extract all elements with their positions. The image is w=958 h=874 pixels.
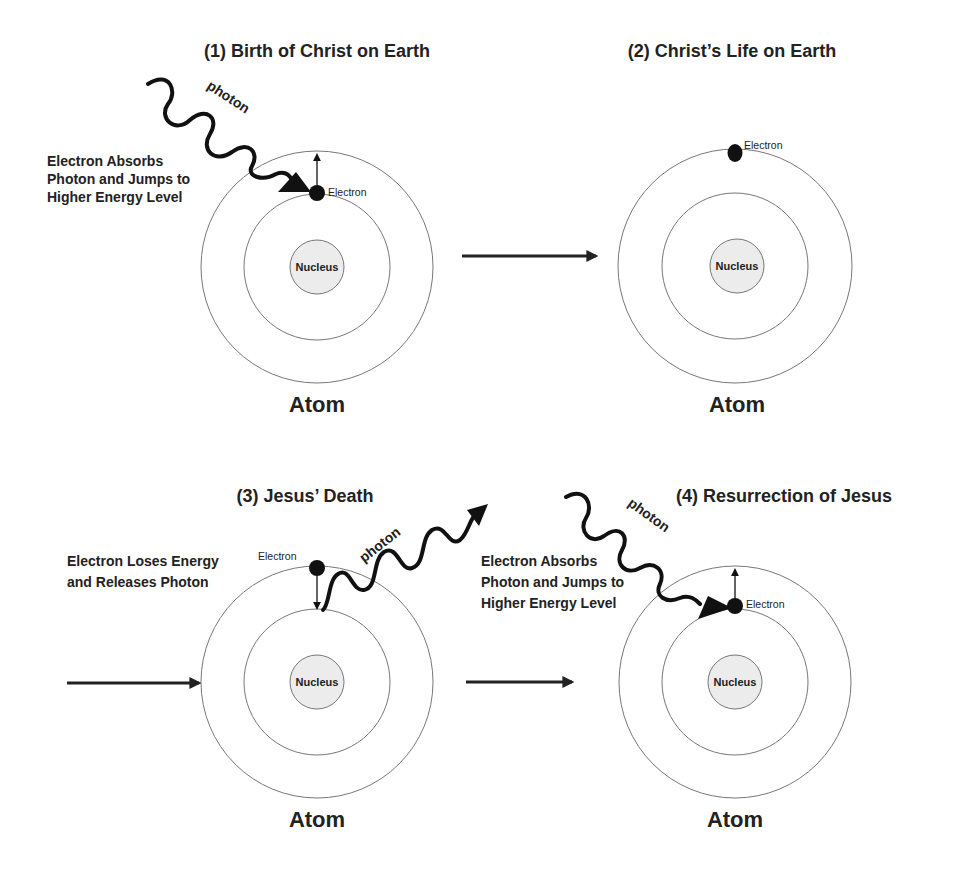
electron xyxy=(728,144,743,162)
panel-1-caption-line-2: Photon and Jumps to xyxy=(47,171,190,187)
nucleus-label: Nucleus xyxy=(714,676,757,688)
panel-3-caption-line-1: Electron Loses Energy xyxy=(67,553,219,569)
photon-label: photon xyxy=(625,494,673,535)
panel-2-life: (2) Christ’s Life on Earth Nucleus Elect… xyxy=(618,41,852,417)
panel-4-resurrection: (4) Resurrection of Jesus Electron Absor… xyxy=(481,486,892,832)
photon-arrowhead-icon xyxy=(698,596,732,619)
electron-label: Electron xyxy=(258,550,297,562)
nucleus-label: Nucleus xyxy=(296,261,339,273)
nucleus-label: Nucleus xyxy=(296,676,339,688)
electron xyxy=(309,185,325,201)
atom-label: Atom xyxy=(289,392,345,417)
panel-1-caption-line-3: Higher Energy Level xyxy=(47,189,182,205)
photon-wave-icon xyxy=(323,514,476,610)
electron-label: Electron xyxy=(744,139,783,151)
panel-4-title: (4) Resurrection of Jesus xyxy=(676,486,892,506)
panel-2-title: (2) Christ’s Life on Earth xyxy=(628,41,836,61)
nucleus-label: Nucleus xyxy=(716,260,759,272)
electron xyxy=(727,598,743,614)
atom-energy-diagram: (1) Birth of Christ on Earth Electron Ab… xyxy=(0,0,958,874)
panel-4-caption-line-3: Higher Energy Level xyxy=(481,595,616,611)
panel-3-death: (3) Jesus’ Death Electron Loses Energy a… xyxy=(67,486,488,832)
photon-arrowhead-icon xyxy=(278,172,311,192)
photon-label: photon xyxy=(204,77,252,116)
panel-4-caption-line-1: Electron Absorbs xyxy=(481,553,597,569)
panel-3-caption-line-2: and Releases Photon xyxy=(67,574,209,590)
electron xyxy=(309,560,325,576)
electron-label: Electron xyxy=(746,598,785,610)
atom-label: Atom xyxy=(707,807,763,832)
panel-4-caption-line-2: Photon and Jumps to xyxy=(481,574,624,590)
panel-1-caption-line-1: Electron Absorbs xyxy=(47,153,163,169)
atom-label: Atom xyxy=(289,807,345,832)
electron-label: Electron xyxy=(328,186,367,198)
panel-1-birth: (1) Birth of Christ on Earth Electron Ab… xyxy=(47,41,433,417)
atom-label: Atom xyxy=(709,392,765,417)
panel-3-title: (3) Jesus’ Death xyxy=(236,486,373,506)
panel-1-title: (1) Birth of Christ on Earth xyxy=(204,41,430,61)
